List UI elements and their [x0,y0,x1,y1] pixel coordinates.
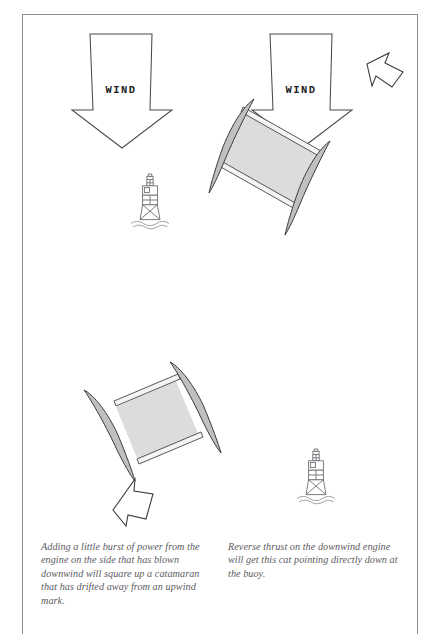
wind-label-right: WIND [286,84,317,96]
thrust-arrow-lower [113,479,153,526]
catamaran-wind-diagram: WIND WIND [22,14,418,539]
caption-right: Reverse thrust on the downwind engine wi… [228,540,399,607]
wind-arrow-left: WIND [72,34,172,148]
buoy-mark-lower [297,449,335,504]
wind-label-left: WIND [106,84,137,96]
catamaran-lower-left [84,362,221,526]
thrust-arrow-upper [367,53,403,87]
caption-left: Adding a little burst of power from the … [41,540,212,607]
caption-row: Adding a little burst of power from the … [22,540,418,607]
buoy-mark-upper [131,174,169,229]
